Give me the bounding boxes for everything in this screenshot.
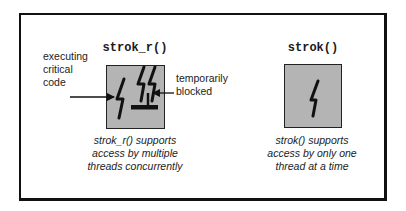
single-thread-icon — [311, 81, 318, 116]
diagram-graphics — [0, 0, 406, 211]
blocked-threads-icon — [138, 67, 155, 101]
executing-thread-icon — [117, 79, 124, 118]
